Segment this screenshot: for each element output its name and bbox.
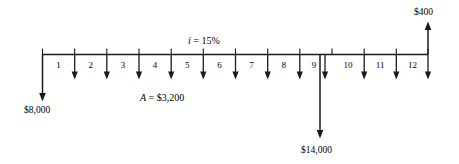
period-label-3: 3 (121, 60, 126, 70)
cash-flow-svg: i = 15% 1 2 3 4 5 6 7 8 9 10 11 12 (0, 0, 459, 164)
period-label-10: 10 (344, 60, 354, 70)
large-outflow-arrow (317, 55, 324, 139)
period-label-6: 6 (217, 60, 222, 70)
period-label-2: 2 (89, 60, 94, 70)
annuity-arrow-2 (104, 55, 110, 80)
period-number-labels: 1 2 3 4 5 6 7 8 9 10 11 12 (56, 60, 417, 70)
initial-investment-label: $8,000 (24, 105, 50, 115)
salvage-inflow-arrow (425, 22, 432, 55)
annuity-arrow-11 (393, 55, 399, 80)
period-label-4: 4 (153, 60, 158, 70)
period-label-9: 9 (312, 60, 317, 70)
initial-investment-arrow (39, 55, 46, 102)
annuity-arrow-8 (297, 55, 303, 80)
annuity-arrow-7 (265, 55, 271, 80)
salvage-inflow-label: $400 (414, 7, 433, 17)
annuity-arrow-1 (72, 55, 78, 80)
period-label-8: 8 (282, 60, 287, 70)
annuity-equals: = (146, 92, 157, 103)
timeline-ticks (43, 49, 429, 55)
annuity-arrow-9 (322, 55, 328, 80)
annuity-value: $3,200 (157, 92, 185, 103)
cash-flow-diagram: i = 15% 1 2 3 4 5 6 7 8 9 10 11 12 (0, 0, 459, 164)
annuity-amount-label: A = $3,200 (139, 92, 184, 103)
annuity-arrow-6 (232, 55, 238, 80)
period-label-1: 1 (56, 60, 61, 70)
period-label-11: 11 (376, 60, 385, 70)
annuity-arrow-4 (168, 55, 174, 80)
large-outflow-label: $14,000 (301, 145, 332, 155)
period-label-12: 12 (408, 60, 417, 70)
annuity-arrow-5 (200, 55, 206, 80)
annuity-arrow-10 (361, 55, 367, 80)
interest-equals: = (191, 35, 202, 46)
annuity-arrow-3 (136, 55, 142, 80)
interest-value: 15% (202, 35, 220, 46)
interest-rate-label: i = 15% (188, 35, 220, 46)
period-label-5: 5 (185, 60, 190, 70)
annuity-arrow-12 (425, 55, 431, 80)
period-label-7: 7 (249, 60, 254, 70)
